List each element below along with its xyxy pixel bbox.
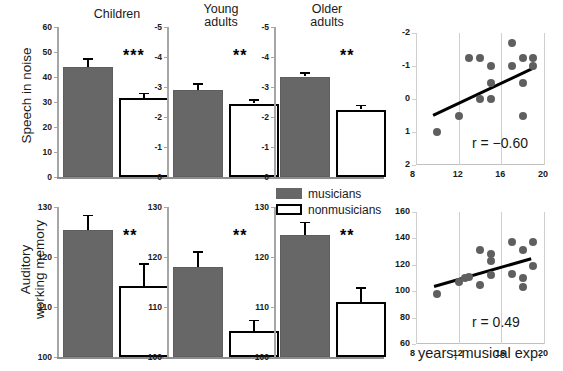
y-axis-tick-label: 130 (131, 202, 162, 212)
y-axis-tick (54, 152, 57, 153)
y-axis-tick (164, 307, 167, 308)
y-axis-tick (164, 147, 167, 148)
y-axis-tick (412, 291, 416, 292)
y-axis-tick (412, 238, 416, 239)
y-axis-tick-label: 100 (131, 352, 162, 362)
y-axis-tick-label: 10 (21, 147, 52, 157)
error-bar-cap (300, 72, 310, 74)
error-bar (87, 215, 89, 230)
error-bar-cap (249, 99, 259, 101)
y-axis-tick (412, 344, 416, 345)
scatter-point (529, 262, 537, 270)
y-axis-tick-label: 110 (238, 302, 269, 312)
scatter-point (529, 238, 537, 246)
y-axis-tick (54, 257, 57, 258)
correlation-label: r = −0.60 (472, 135, 528, 151)
error-bar-cap (139, 263, 149, 265)
scatter-point (519, 274, 527, 282)
y-axis-line (167, 27, 169, 177)
figure-panel: Speech in noise Auditory working memory … (0, 0, 563, 371)
y-axis-tick (164, 257, 167, 258)
error-bar-cap (139, 93, 149, 95)
y-axis-tick-label: -1 (238, 142, 269, 152)
y-axis-tick (412, 165, 416, 166)
significance-marker: ** (340, 51, 354, 61)
y-axis-tick (412, 265, 416, 266)
y-axis-tick-label: -4 (131, 52, 162, 62)
legend-swatch-musicians (276, 188, 302, 199)
y-axis-tick-label: 120 (390, 259, 410, 269)
scatter-point (519, 246, 527, 254)
error-bar-cap (249, 320, 259, 322)
error-bar (304, 222, 306, 235)
y-axis-tick-label: 100 (390, 285, 410, 295)
significance-marker: ** (340, 231, 354, 241)
scatter-point (487, 79, 495, 87)
panel-title: Children (62, 8, 172, 21)
bar-nonmusicians (336, 110, 386, 178)
y-axis-tick-label: -5 (131, 22, 162, 32)
y-axis-tick-label: 80 (390, 312, 410, 322)
y-axis-tick (164, 207, 167, 208)
scatter-point (519, 79, 527, 87)
bar-musicians (63, 230, 113, 358)
y-axis-tick (271, 307, 274, 308)
y-axis-tick-label: 60 (21, 22, 52, 32)
correlation-label: r = 0.49 (472, 314, 520, 330)
y-axis-tick-label: -1 (390, 60, 410, 70)
y-axis-tick-label: 0 (238, 172, 269, 182)
legend-swatch-nonmusicians (276, 204, 302, 215)
y-axis-tick-label: 20 (21, 122, 52, 132)
bar-musicians (173, 267, 223, 357)
y-axis-tick (271, 87, 274, 88)
scatter-point (487, 257, 495, 265)
y-axis-tick-label: -3 (131, 82, 162, 92)
y-axis-tick-label: -3 (238, 82, 269, 92)
y-axis-tick (164, 87, 167, 88)
error-bar-cap (193, 251, 203, 253)
scatter-point (529, 54, 537, 62)
y-axis-tick-label: 60 (390, 338, 410, 348)
y-axis-tick-label: 1 (390, 126, 410, 136)
scatter-point (529, 62, 537, 70)
x-axis-tick-label: 20 (538, 169, 548, 179)
legend: musicians nonmusicians (276, 186, 381, 218)
legend-item-nonmusicians: nonmusicians (276, 202, 381, 217)
scatter-point (487, 271, 495, 279)
scatter-point (519, 283, 527, 291)
y-axis-tick (412, 212, 416, 213)
error-bar (197, 251, 199, 267)
y-axis-tick (271, 57, 274, 58)
scatter-point (476, 95, 484, 103)
row-label-working-memory-line2: working memory (32, 200, 47, 340)
error-bar-cap (300, 222, 310, 224)
x-axis-tick-label: 8 (410, 348, 415, 358)
x-axis-tick-label: 16 (495, 348, 505, 358)
y-axis-tick-label: -1 (131, 142, 162, 152)
error-bar (253, 320, 255, 331)
y-axis-tick (54, 102, 57, 103)
scatter-xaxis-title: years, musical exp. (418, 345, 542, 361)
y-axis-tick-label: 100 (238, 352, 269, 362)
scatter-point (487, 62, 495, 70)
x-gridline (544, 212, 545, 344)
x-gridline (544, 33, 545, 165)
y-axis-tick (271, 207, 274, 208)
x-axis-tick-label: 8 (410, 169, 415, 179)
y-axis-line (57, 27, 59, 177)
scatter-point (487, 95, 495, 103)
x-gridline (416, 33, 417, 165)
y-axis-tick (412, 33, 416, 34)
y-axis-line (167, 207, 169, 357)
y-axis-tick (271, 117, 274, 118)
y-axis-tick (412, 132, 416, 133)
scatter-point (476, 54, 484, 62)
scatter-point (433, 290, 441, 298)
scatter-point (519, 112, 527, 120)
x-gridline (416, 212, 417, 344)
error-bar (360, 287, 362, 302)
error-bar-cap (356, 105, 366, 107)
y-axis-tick (412, 318, 416, 319)
y-axis-tick-label: -2 (131, 112, 162, 122)
y-axis-tick (54, 77, 57, 78)
